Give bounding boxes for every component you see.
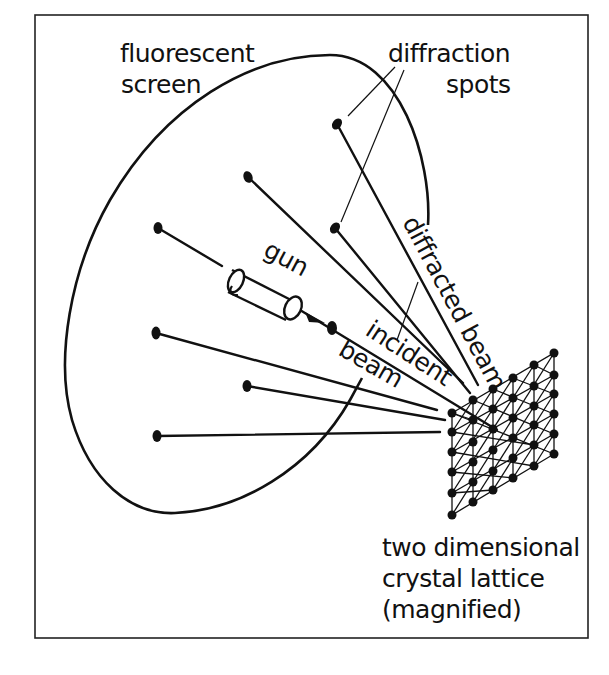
- label-spots: spots: [446, 70, 511, 99]
- spot: [153, 430, 162, 442]
- spot: [243, 380, 252, 392]
- label-lattice-line2: crystal lattice: [382, 564, 544, 593]
- spot: [152, 327, 161, 340]
- label-lattice-line3: (magnified): [382, 595, 521, 624]
- diffracted-beam-line-7: [157, 432, 440, 436]
- spot: [154, 222, 163, 234]
- spot: [330, 117, 344, 132]
- label-lattice-line1: two dimensional: [382, 533, 580, 562]
- label-screen: screen: [121, 70, 201, 99]
- label-diffraction: diffraction: [388, 39, 510, 68]
- label-gun: gun: [259, 235, 313, 282]
- diffracted-beam-line-4: [158, 228, 222, 266]
- label-fluorescent: fluorescent: [120, 39, 255, 68]
- fluorescent-screen-outline: [65, 55, 428, 513]
- leed-diagram: fluorescent screen diffraction spots gun…: [0, 0, 609, 675]
- electron-gun: [225, 267, 337, 335]
- leader-diffraction-spots-2: [341, 70, 404, 222]
